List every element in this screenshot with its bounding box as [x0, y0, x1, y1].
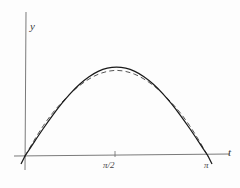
approximation-curve	[25, 70, 208, 156]
y-axis-label: y	[30, 20, 35, 32]
x-axis-line	[14, 154, 230, 156]
curves-group	[21, 67, 212, 164]
curve-left-tail	[21, 156, 25, 164]
exact-solution-curve	[25, 67, 208, 156]
x-tick-label-pi: π	[204, 160, 209, 170]
math-plot-figure: y t π/2 π	[0, 0, 240, 188]
x-axis-label: t	[228, 146, 231, 158]
axes-group	[14, 12, 230, 170]
x-tick-label-pi-half: π/2	[103, 160, 115, 170]
y-axis-line	[25, 12, 26, 170]
